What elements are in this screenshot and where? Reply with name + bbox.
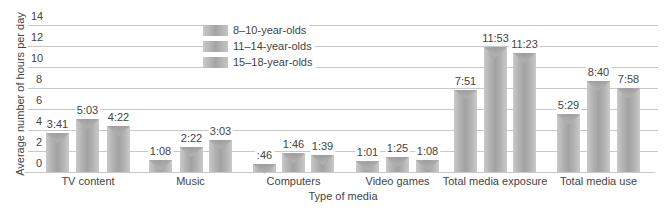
- value-label: 2:22: [179, 132, 204, 144]
- legend-swatch-icon: [203, 25, 228, 36]
- value-label: 4:22: [106, 111, 131, 123]
- legend-item: 15–18-year-olds: [203, 56, 316, 68]
- bar: [209, 140, 232, 172]
- bar-chart: 02468101214 Average number of hours per …: [0, 0, 666, 212]
- bar: [587, 81, 610, 172]
- category-label: Music: [176, 175, 205, 187]
- bar: [484, 47, 507, 172]
- bar: [180, 147, 203, 172]
- y-tick-label: 6: [32, 94, 46, 106]
- value-label: 3:03: [208, 125, 233, 137]
- y-axis-label: Average number of hours per day: [14, 4, 26, 184]
- value-label: 5:29: [556, 99, 581, 111]
- bar: [454, 90, 477, 172]
- bar: [557, 114, 580, 172]
- gridline: [25, 172, 655, 173]
- bar: [416, 160, 439, 172]
- bar: [282, 153, 305, 172]
- gridline: [28, 88, 658, 89]
- y-tick-label: 10: [30, 52, 44, 64]
- value-label: 11:53: [480, 32, 511, 44]
- category-label: Total media exposure: [443, 175, 548, 187]
- bar: [356, 161, 379, 172]
- y-tick-label: 0: [32, 157, 46, 169]
- y-tick-label: 14: [30, 10, 44, 22]
- bar: [253, 164, 276, 172]
- legend-label: 11–14-year-olds: [233, 40, 312, 52]
- bar: [513, 53, 536, 172]
- value-label: 1:08: [415, 145, 440, 157]
- gridline: [28, 25, 658, 26]
- legend-swatch-icon: [203, 41, 228, 52]
- value-label: 1:08: [148, 145, 173, 157]
- category-label: Video games: [365, 175, 429, 187]
- bar: [149, 160, 172, 172]
- bar: [76, 119, 99, 172]
- gridline: [28, 46, 658, 47]
- bar: [46, 133, 69, 172]
- value-label: 1:46: [281, 138, 306, 150]
- gridline: [28, 67, 658, 68]
- bar: [617, 88, 640, 172]
- y-tick-label: 12: [30, 31, 44, 43]
- value-label: 1:01: [355, 146, 380, 158]
- value-label: 11:23: [509, 38, 540, 50]
- bar: [311, 155, 334, 172]
- legend-item: 11–14-year-olds: [203, 40, 315, 52]
- category-label: Total media use: [560, 175, 637, 187]
- value-label: 7:51: [453, 75, 478, 87]
- value-label: 8:40: [586, 66, 611, 78]
- bar: [107, 126, 130, 172]
- y-tick-label: 8: [32, 73, 46, 85]
- value-label: 3:41: [45, 118, 70, 130]
- legend-label: 15–18-year-olds: [233, 56, 313, 68]
- value-label: 7:58: [616, 73, 641, 85]
- category-label: Computers: [267, 175, 321, 187]
- legend-item: 8–10-year-olds: [203, 24, 309, 36]
- value-label: :46: [255, 149, 274, 161]
- value-label: 1:25: [385, 142, 410, 154]
- x-axis-title: Type of media: [308, 190, 377, 202]
- y-tick-label: 2: [32, 136, 46, 148]
- value-label: 1:39: [310, 140, 335, 152]
- category-label: TV content: [61, 175, 114, 187]
- bar: [386, 157, 409, 172]
- legend-swatch-icon: [203, 57, 228, 68]
- value-label: 5:03: [75, 104, 100, 116]
- legend-label: 8–10-year-olds: [233, 24, 306, 36]
